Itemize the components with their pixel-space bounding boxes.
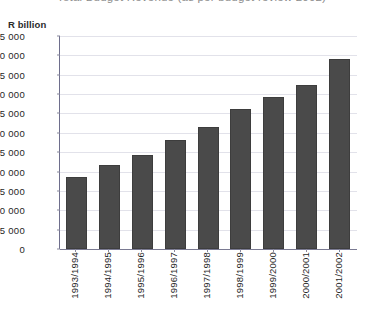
y-tick-label: 50 000 xyxy=(0,205,25,216)
bar xyxy=(230,109,251,249)
y-tick-label: 200 000 xyxy=(0,89,25,100)
plot-inner: 025 00050 00075 000100 000125 000150 000… xyxy=(60,36,356,249)
bars-layer xyxy=(60,36,356,249)
x-tick-label: 2001/2002 xyxy=(333,252,344,299)
chart-title: Total Budget Revenue (as per budget revi… xyxy=(57,0,377,4)
y-tick-label: 125 000 xyxy=(0,147,25,158)
plot-area: 025 00050 00075 000100 000125 000150 000… xyxy=(59,36,356,249)
axis-baseline xyxy=(60,249,357,250)
y-tick-label: 100 000 xyxy=(0,166,25,177)
bar xyxy=(132,155,153,249)
bar xyxy=(263,97,284,249)
y-tick-label: 175 000 xyxy=(0,108,25,119)
x-tick-label: 1994/1995 xyxy=(102,252,113,299)
bar xyxy=(329,59,350,249)
x-tick-label: 1997/1998 xyxy=(201,252,212,299)
x-tick-label: 1996/1997 xyxy=(168,252,179,299)
y-tick-label: 275 000 xyxy=(0,31,25,42)
y-tick-label: 25 000 xyxy=(0,224,25,235)
x-tick-label: 1999/2000 xyxy=(267,252,278,299)
x-tick-label: 1995/1996 xyxy=(135,252,146,299)
y-tick-label: 225 000 xyxy=(0,69,25,80)
x-axis-labels: 1993/19941994/19951995/19961996/19971997… xyxy=(59,252,355,318)
y-tick-label: 250 000 xyxy=(0,50,25,61)
chart-figure: Total Budget Revenue (as per budget revi… xyxy=(0,0,386,318)
y-tick-label: 0 xyxy=(0,244,25,255)
bar xyxy=(99,165,120,249)
x-tick-label: 1993/1994 xyxy=(69,252,80,299)
bar xyxy=(66,177,87,249)
y-tick-label: 150 000 xyxy=(0,127,25,138)
bar xyxy=(198,127,219,249)
x-tick-label: 2000/2001 xyxy=(300,252,311,299)
y-axis-label: R billion xyxy=(8,19,46,30)
x-tick-label: 1998/1999 xyxy=(234,252,245,299)
bar xyxy=(296,85,317,249)
chart-title-block: Total Budget Revenue (as per budget revi… xyxy=(57,0,377,4)
y-tick-label: 75 000 xyxy=(0,185,25,196)
bar xyxy=(165,140,186,249)
